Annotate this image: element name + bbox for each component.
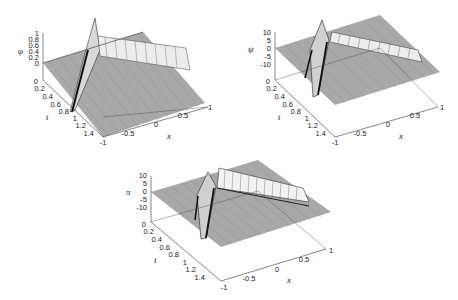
plot-psi: 10 5 0 -5 -10 ψ 0 0.2 0.4 0.6 0.8 1 1.2 …: [230, 0, 458, 150]
svg-text:-0.5: -0.5: [243, 274, 256, 283]
svg-text:0.5: 0.5: [410, 111, 420, 120]
svg-text:0.5: 0.5: [178, 111, 188, 120]
plot-phi: 1 0.8 0.6 0.4 0.2 0 φ 0 0.2 0.4 0.6 0.8 …: [0, 0, 230, 150]
plot-pi: 10 5 0 -5 -10 π 0 0.2 0.4 0.6 0.8 1 1.2 …: [113, 150, 343, 300]
svg-text:0.8: 0.8: [169, 250, 179, 259]
svg-text:1.4: 1.4: [84, 129, 94, 138]
t-axis-label: t: [46, 112, 49, 122]
svg-text:0: 0: [386, 120, 390, 129]
phi-surface-plot: 1 0.8 0.6 0.4 0.2 0 φ 0 0.2 0.4 0.6 0.8 …: [0, 0, 230, 150]
svg-text:0.8: 0.8: [59, 107, 69, 116]
svg-text:0: 0: [154, 120, 158, 129]
t-axis-label: t: [278, 112, 281, 122]
z-tick-labels: 1 0.8 0.6 0.4 0.2 0: [29, 29, 39, 68]
svg-text:-1: -1: [332, 138, 339, 147]
z-axis-label: ψ: [248, 44, 254, 54]
svg-text:-0.5: -0.5: [354, 129, 367, 138]
svg-text:-10: -10: [136, 203, 147, 212]
t-axis-label: t: [154, 255, 157, 265]
x-tick-labels: -1 -0.5 0 0.5 1: [221, 246, 333, 292]
t-tick-labels: 0 0.2 0.4 0.6 0.8 1 1.2 1.4: [142, 220, 205, 282]
svg-text:1.4: 1.4: [316, 129, 326, 138]
x-axis-label: x: [398, 131, 403, 141]
svg-text:-0.5: -0.5: [122, 129, 135, 138]
z-tick-labels: 10 5 0 -5 -10: [136, 171, 147, 212]
svg-text:1.4: 1.4: [195, 273, 205, 282]
svg-text:1: 1: [440, 103, 444, 112]
pi-surface-plot: 10 5 0 -5 -10 π 0 0.2 0.4 0.6 0.8 1 1.2 …: [113, 150, 353, 300]
psi-surface-plot: 10 5 0 -5 -10 ψ 0 0.2 0.4 0.6 0.8 1 1.2 …: [230, 0, 458, 150]
svg-text:-1: -1: [221, 283, 228, 292]
x-axis-label: x: [166, 131, 171, 141]
x-axis-label: x: [286, 275, 291, 285]
x-tick-labels: -1 -0.5 0 0.5 1: [332, 103, 444, 147]
svg-text:0: 0: [275, 265, 279, 274]
svg-text:-10: -10: [260, 60, 271, 69]
svg-text:1: 1: [208, 103, 212, 112]
svg-text:1: 1: [329, 246, 333, 255]
svg-text:0: 0: [35, 59, 39, 68]
svg-text:-1: -1: [100, 138, 107, 147]
svg-text:0.5: 0.5: [299, 255, 309, 264]
z-tick-labels: 10 5 0 -5 -10: [260, 28, 271, 69]
z-axis-label: φ: [18, 46, 23, 56]
svg-text:0.8: 0.8: [291, 107, 301, 116]
z-axis-label: π: [126, 187, 131, 197]
